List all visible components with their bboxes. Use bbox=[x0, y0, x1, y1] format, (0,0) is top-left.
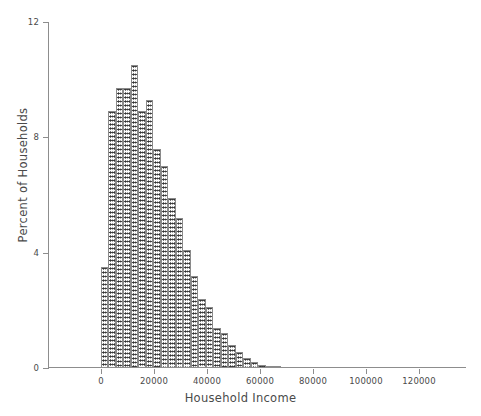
histogram-bar bbox=[108, 111, 115, 368]
x-tick bbox=[419, 369, 420, 374]
histogram-bar bbox=[221, 333, 228, 368]
x-tick bbox=[260, 369, 261, 374]
x-tick-label: 100000 bbox=[336, 376, 396, 386]
histogram-bar bbox=[228, 345, 235, 368]
histogram-bar bbox=[213, 328, 220, 368]
histogram-bar bbox=[146, 100, 153, 368]
x-tick bbox=[154, 369, 155, 374]
histogram-figure: 020000400006000080000100000120000 04812 … bbox=[0, 0, 481, 416]
x-tick-label: 20000 bbox=[124, 376, 184, 386]
y-tick-label: 4 bbox=[33, 248, 39, 258]
x-tick bbox=[313, 369, 314, 374]
x-tick bbox=[366, 369, 367, 374]
y-axis-line bbox=[48, 22, 49, 369]
y-tick bbox=[43, 137, 48, 138]
y-tick bbox=[43, 253, 48, 254]
histogram-bar bbox=[161, 166, 168, 368]
x-tick bbox=[207, 369, 208, 374]
histogram-bar bbox=[191, 276, 198, 368]
y-tick bbox=[43, 22, 48, 23]
histogram-bar bbox=[123, 88, 130, 368]
histogram-bar bbox=[168, 198, 175, 368]
histogram-bar bbox=[236, 352, 243, 368]
histogram-bar bbox=[198, 299, 205, 368]
histogram-bar bbox=[206, 307, 213, 368]
y-tick bbox=[43, 368, 48, 369]
y-tick-label: 8 bbox=[33, 132, 39, 142]
histogram-bar bbox=[101, 267, 108, 368]
y-axis-label: Percent of Households bbox=[16, 60, 30, 290]
histogram-bar bbox=[153, 149, 160, 368]
y-tick-label: 0 bbox=[33, 363, 39, 373]
x-tick bbox=[101, 369, 102, 374]
plot-area bbox=[0, 0, 481, 416]
x-axis-line bbox=[48, 367, 466, 368]
y-tick-label: 12 bbox=[28, 17, 39, 27]
histogram-bar bbox=[176, 218, 183, 368]
histogram-bar bbox=[131, 65, 138, 368]
x-tick-label: 0 bbox=[71, 376, 131, 386]
x-axis-label: Household Income bbox=[0, 391, 481, 405]
histogram-bar bbox=[138, 111, 145, 368]
x-tick-label: 80000 bbox=[283, 376, 343, 386]
histogram-bar bbox=[183, 250, 190, 368]
histogram-bar bbox=[116, 88, 123, 368]
x-tick-label: 60000 bbox=[230, 376, 290, 386]
x-tick-label: 40000 bbox=[177, 376, 237, 386]
x-tick-label: 120000 bbox=[389, 376, 449, 386]
